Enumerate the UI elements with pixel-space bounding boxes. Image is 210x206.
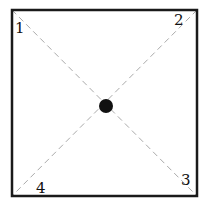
corner-label-2: 2 bbox=[174, 11, 184, 29]
corner-label-4: 4 bbox=[36, 179, 46, 197]
square-diagram: 1 2 3 4 bbox=[0, 0, 210, 206]
corner-label-1: 1 bbox=[15, 19, 25, 37]
center-dot bbox=[99, 99, 113, 113]
corner-label-3: 3 bbox=[181, 171, 191, 189]
